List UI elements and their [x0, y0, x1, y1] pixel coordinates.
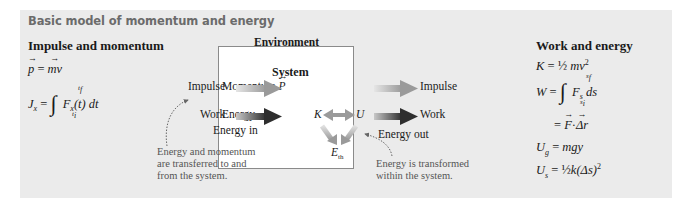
kinetic-energy-equation: K = ½ mv2: [536, 58, 589, 74]
k-to-eth-arrow: [322, 126, 337, 145]
k-u-double-arrow: [323, 109, 355, 121]
impulse-in-arrow: [236, 80, 282, 97]
impulse-out-arrow: [374, 80, 418, 97]
u-to-eth-arrow: [341, 126, 356, 145]
spring-potential-equation: Us = ½k(Δs)2: [536, 162, 601, 180]
transfer-pointer: [166, 100, 188, 146]
work-in-arrow: [236, 108, 282, 125]
work-integral-equation: W = ∫ sf si Fs ds: [536, 80, 597, 106]
transform-pointer: [365, 134, 392, 156]
work-out-arrow: [374, 108, 418, 125]
work-dot-product-equation: = F·Δr: [554, 118, 588, 133]
gravitational-potential-equation: Ug = mgy: [536, 140, 583, 157]
work-energy-heading: Work and energy: [536, 38, 633, 54]
diagram-arrows: [0, 0, 694, 216]
